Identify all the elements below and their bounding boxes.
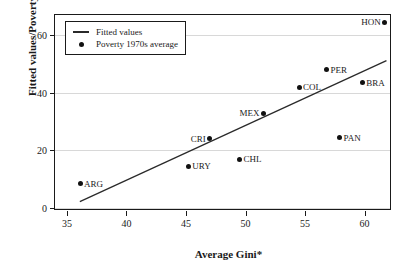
point-label-per: PER: [331, 65, 348, 75]
point-label-mex: MEX: [239, 108, 259, 118]
y-tick-label: 60: [37, 30, 47, 41]
data-point-mex: [261, 111, 266, 116]
scatter-chart: Fitted values/Poverty 0204060 3540455055…: [0, 0, 403, 273]
x-tick-mark: [67, 211, 68, 216]
x-tick-mark: [305, 211, 306, 216]
x-tick-label: 45: [181, 218, 191, 229]
plot-area: 0204060 354045505560 ARGURYCRICHLMEXCOLP…: [54, 14, 391, 210]
y-tick-label: 0: [42, 203, 47, 214]
data-point-arg: [78, 181, 83, 186]
x-tick-label: 60: [360, 218, 370, 229]
x-tick-label: 55: [300, 218, 310, 229]
point-label-col: COL: [303, 82, 321, 92]
y-tick-label: 40: [37, 87, 47, 98]
x-tick-mark: [126, 211, 127, 216]
point-label-cri: CRI: [191, 134, 206, 144]
legend-dot-icon: [71, 42, 91, 47]
data-point-bra: [360, 80, 365, 85]
data-point-col: [297, 85, 302, 90]
point-label-bra: BRA: [366, 78, 385, 88]
x-tick-label: 50: [241, 218, 251, 229]
legend-label-poverty-average: Poverty 1970s average: [96, 39, 178, 49]
data-point-ury: [186, 164, 191, 169]
y-axis-title: Fitted values/Poverty: [26, 0, 38, 144]
point-label-chl: CHL: [244, 154, 262, 164]
point-label-pan: PAN: [344, 133, 361, 143]
legend-item-poverty-average: Poverty 1970s average: [71, 38, 178, 50]
legend-item-fitted-values: Fitted values: [71, 26, 178, 38]
legend: Fitted values Poverty 1970s average: [65, 21, 186, 55]
x-tick-mark: [186, 211, 187, 216]
legend-label-fitted-values: Fitted values: [96, 27, 142, 37]
point-label-hon: HON: [361, 17, 381, 27]
x-tick-label: 40: [121, 218, 131, 229]
x-tick-mark: [246, 211, 247, 216]
y-tick-label: 20: [37, 145, 47, 156]
point-label-ury: URY: [192, 161, 211, 171]
x-axis-title: Average Gini*: [54, 248, 403, 260]
point-label-arg: ARG: [84, 179, 103, 189]
legend-line-icon: [71, 31, 91, 33]
data-point-chl: [237, 157, 242, 162]
x-tick-label: 35: [62, 218, 72, 229]
x-tick-mark: [365, 211, 366, 216]
